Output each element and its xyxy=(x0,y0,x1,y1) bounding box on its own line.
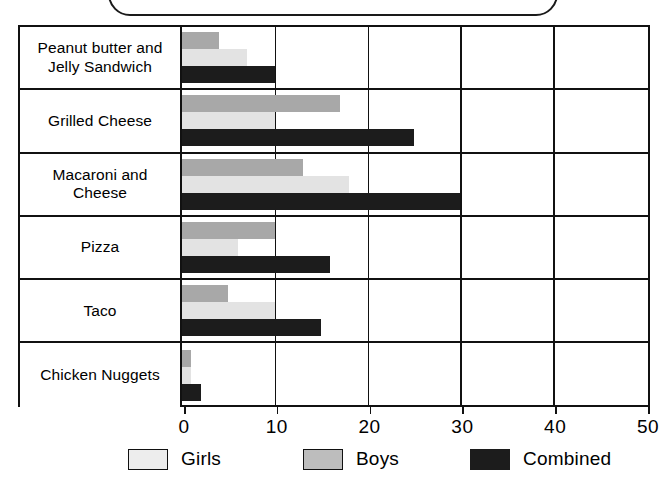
bar-group xyxy=(182,27,648,88)
legend-item-boys[interactable]: Boys xyxy=(303,448,399,470)
row-label: Macaroni and Cheese xyxy=(20,154,182,215)
bar-combined xyxy=(182,319,321,336)
row-plot-area xyxy=(182,154,648,215)
bar-group xyxy=(182,217,648,278)
row-label: Chicken Nuggets xyxy=(20,343,182,406)
chart-row: Pizza xyxy=(20,217,648,280)
legend-item-combined[interactable]: Combined xyxy=(470,448,611,470)
legend-swatch-girls-icon xyxy=(128,449,168,470)
row-label: Taco xyxy=(20,280,182,341)
top-rounded-box xyxy=(108,0,558,16)
bar-boys xyxy=(182,32,219,49)
legend-swatch-combined-icon xyxy=(470,449,510,470)
axis-tick-label: 20 xyxy=(359,416,381,438)
axis-tick-label: 50 xyxy=(637,416,659,438)
chart-table: Peanut butter and Jelly SandwichGrilled … xyxy=(18,25,650,407)
row-label: Peanut butter and Jelly Sandwich xyxy=(20,27,182,88)
bar-group xyxy=(182,343,648,406)
axis-tick-label: 30 xyxy=(451,416,473,438)
legend-label: Boys xyxy=(356,448,399,470)
bar-girls xyxy=(182,176,349,193)
bar-boys xyxy=(182,159,303,176)
bar-girls xyxy=(182,239,238,256)
bar-girls xyxy=(182,367,191,384)
row-plot-area xyxy=(182,280,648,341)
chart-row: Taco xyxy=(20,280,648,343)
bar-boys xyxy=(182,222,275,239)
bar-combined xyxy=(182,384,201,401)
axis-tick-label: 10 xyxy=(266,416,288,438)
row-label: Grilled Cheese xyxy=(20,90,182,151)
bar-group xyxy=(182,280,648,341)
row-plot-area xyxy=(182,217,648,278)
legend-item-girls[interactable]: Girls xyxy=(128,448,221,470)
x-axis: 01020304050 xyxy=(18,405,650,449)
bar-girls xyxy=(182,112,275,129)
bar-boys xyxy=(182,285,228,302)
bar-girls xyxy=(182,49,247,66)
bar-group xyxy=(182,90,648,151)
bar-group xyxy=(182,154,648,215)
chart-row: Chicken Nuggets xyxy=(20,343,648,406)
chart-row: Macaroni and Cheese xyxy=(20,154,648,217)
chart-legend: GirlsBoysCombined xyxy=(18,448,650,480)
legend-label: Girls xyxy=(181,448,221,470)
bar-combined xyxy=(182,66,275,83)
row-plot-area xyxy=(182,90,648,151)
axis-tick xyxy=(648,405,650,414)
bar-combined xyxy=(182,129,414,146)
row-plot-area xyxy=(182,343,648,406)
bar-combined xyxy=(182,256,330,273)
row-plot-area xyxy=(182,27,648,88)
bar-combined xyxy=(182,193,460,210)
bar-boys xyxy=(182,95,340,112)
bar-girls xyxy=(182,302,275,319)
axis-tick-label: 40 xyxy=(544,416,566,438)
legend-swatch-boys-icon xyxy=(303,449,343,470)
bar-boys xyxy=(182,350,191,367)
row-label: Pizza xyxy=(20,217,182,278)
axis-tick-label: 0 xyxy=(178,416,189,438)
chart-row: Peanut butter and Jelly Sandwich xyxy=(20,27,648,90)
legend-label: Combined xyxy=(523,448,611,470)
chart-row: Grilled Cheese xyxy=(20,90,648,153)
